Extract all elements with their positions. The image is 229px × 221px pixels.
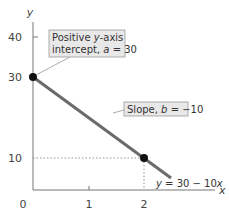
- y-tick-label-40: 40: [8, 31, 22, 44]
- x-tick-label-1: 1: [86, 198, 93, 211]
- slope-annotation-text: Slope, b = −10: [127, 104, 203, 115]
- intercept-point: [29, 73, 37, 81]
- slope-leader-line: [113, 110, 124, 113]
- equation-label: y = 30 − 10x: [155, 178, 223, 189]
- y-axis-label: y: [26, 6, 34, 19]
- origin-label: 0: [20, 198, 27, 211]
- intercept-annotation-line1: Positive y-axis: [52, 32, 123, 43]
- chart: y x 40 30 10 0 1 2 Positive y-axis inter…: [0, 0, 229, 221]
- line-y-30-minus-10x: [33, 77, 171, 178]
- intercept-annotation-line2: intercept, a = 30: [52, 44, 137, 55]
- y-tick-label-30: 30: [8, 71, 22, 84]
- y-tick-label-10: 10: [8, 152, 22, 165]
- x-tick-label-2: 2: [141, 198, 148, 211]
- intercept-leader-line: [36, 57, 70, 75]
- point-x2-y10: [140, 154, 148, 162]
